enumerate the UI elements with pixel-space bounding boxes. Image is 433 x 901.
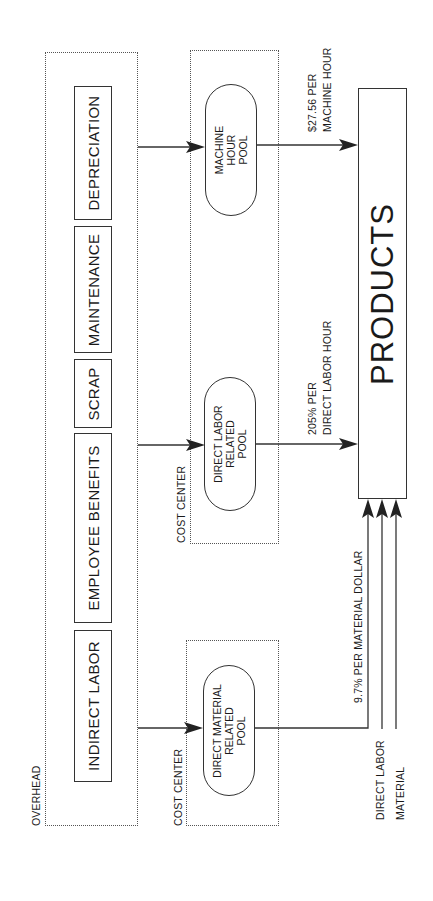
connectors — [0, 0, 433, 901]
